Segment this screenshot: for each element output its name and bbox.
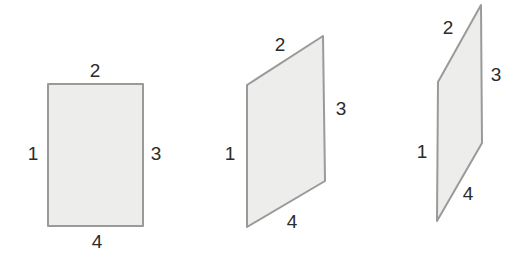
edge-label-parallelogram-narrow-2: 2 [443,18,454,37]
edge-label-rectangle-1: 1 [28,144,39,163]
edge-label-rectangle-2: 2 [90,61,101,80]
edge-label-rectangle-4: 4 [92,232,103,251]
quadrilateral-parallelogram-medium [247,36,325,227]
edge-label-parallelogram-narrow-1: 1 [417,142,428,161]
edge-label-parallelogram-medium-3: 3 [336,99,347,118]
edge-label-parallelogram-medium-2: 2 [275,35,286,54]
edge-label-parallelogram-medium-4: 4 [287,212,298,231]
edge-label-parallelogram-medium-1: 1 [225,144,236,163]
edge-label-parallelogram-narrow-4: 4 [463,184,474,203]
edge-label-parallelogram-narrow-3: 3 [491,65,502,84]
quadrilateral-diagram [0,0,526,260]
figure-canvas: 123412341234 [0,0,526,260]
edge-label-rectangle-3: 3 [151,144,162,163]
quadrilateral-rectangle [48,84,143,226]
